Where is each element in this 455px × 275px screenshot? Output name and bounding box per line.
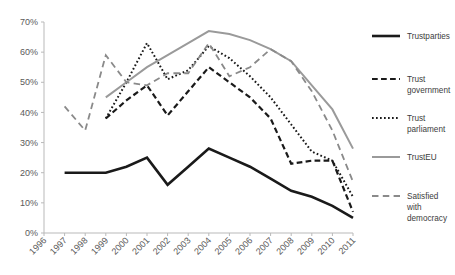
x-tick-label: 1997 [48, 235, 69, 256]
series-line-0 [65, 149, 353, 218]
chart-svg: 0%10%20%30%40%50%60%70% 1996199719981999… [0, 0, 455, 275]
legend-label-2: parliament [407, 125, 446, 134]
legend-label-1: government [407, 86, 451, 95]
x-tick-label: 2004 [192, 235, 213, 256]
series-line-3 [106, 31, 353, 149]
series-group [65, 31, 353, 218]
x-tick-label: 2008 [274, 235, 295, 256]
y-tick-label: 40% [20, 108, 38, 118]
legend-label-3: TrustEU [407, 153, 437, 162]
legend-label-2: Trust [407, 114, 426, 123]
x-tick-label: 1996 [27, 235, 48, 256]
x-tick-label: 1998 [68, 235, 89, 256]
y-tick-label: 20% [20, 168, 38, 178]
legend-label-4: Satisfied [407, 192, 439, 201]
x-tick-label: 2005 [213, 235, 234, 256]
y-axis-group: 0%10%20%30%40%50%60%70% [20, 17, 44, 238]
y-tick-label: 30% [20, 138, 38, 148]
x-tick-label: 2011 [337, 235, 358, 256]
legend-label-4: democracy [407, 214, 448, 223]
series-line-2 [106, 43, 353, 197]
legend-label-1: Trust [407, 75, 426, 84]
y-tick-label: 10% [20, 198, 38, 208]
y-tick-label: 50% [20, 77, 38, 87]
line-chart: 0%10%20%30%40%50%60%70% 1996199719981999… [0, 0, 455, 275]
legend-label-0: Trustparties [407, 32, 450, 41]
x-tick-label: 2002 [151, 235, 172, 256]
x-tick-label: 2001 [130, 235, 151, 256]
x-tick-label: 2010 [316, 235, 337, 256]
x-tick-label: 2009 [295, 235, 316, 256]
legend: TrustpartiesTrustgovernmentTrustparliame… [372, 32, 451, 223]
y-tick-label: 70% [20, 17, 38, 27]
x-tick-label: 2006 [233, 235, 254, 256]
x-tick-label: 2003 [171, 235, 192, 256]
x-tick-label: 2007 [254, 235, 275, 256]
x-tick-label: 2000 [110, 235, 131, 256]
x-axis-group: 1996199719981999200020012002200320042005… [27, 233, 357, 257]
y-tick-label: 60% [20, 47, 38, 57]
x-tick-label: 1999 [89, 235, 110, 256]
legend-label-4: with [406, 203, 422, 212]
y-tick-label: 0% [25, 228, 38, 238]
